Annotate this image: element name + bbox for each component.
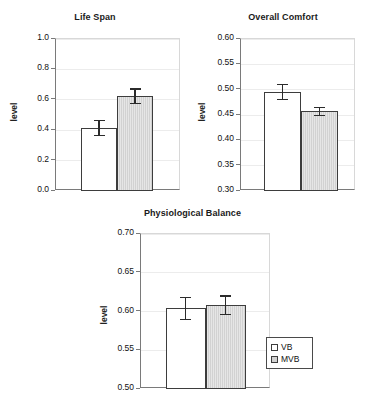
y-tick-label: 0.4: [14, 124, 49, 133]
error-bar-mvb: [301, 107, 338, 116]
y-tick-label: 0.70: [99, 228, 134, 237]
error-bar-cap-top: [180, 297, 191, 298]
y-tick-label: 0.6: [14, 94, 49, 103]
y-tick-mark: [236, 139, 240, 140]
error-bar-stem: [134, 88, 135, 104]
plot-area-life-span: [55, 38, 180, 190]
legend-label-vb: VB: [281, 343, 292, 352]
chart-title-physiological-balance: Physiological Balance: [95, 208, 290, 218]
error-bar-cap-top: [130, 88, 141, 89]
y-tick-mark: [136, 388, 140, 389]
error-bar-stem: [282, 84, 283, 100]
error-bar-cap-bottom: [277, 99, 288, 100]
gridline: [56, 69, 179, 70]
y-tick-mark: [236, 190, 240, 191]
y-tick-label: 0.50: [199, 84, 234, 93]
y-tick-mark: [136, 233, 140, 234]
gridline: [141, 234, 269, 235]
gridline: [141, 272, 269, 273]
y-tick-label: 0.40: [199, 134, 234, 143]
y-tick-mark: [236, 88, 240, 89]
y-tick-label: 0.55: [199, 58, 234, 67]
error-bar-cap-top: [277, 84, 288, 85]
y-tick-mark: [51, 190, 55, 191]
error-bar-mvb: [206, 295, 246, 315]
y-tick-mark: [136, 349, 140, 350]
error-bar-cap-bottom: [180, 319, 191, 320]
y-tick-label: 0.2: [14, 155, 49, 164]
error-bar-cap-bottom: [220, 314, 231, 315]
error-bar-stem: [225, 295, 226, 315]
y-tick-mark: [236, 164, 240, 165]
chart-title-overall-comfort: Overall Comfort: [188, 12, 378, 22]
plot-area-overall-comfort: [240, 38, 355, 190]
legend-item-vb: VB: [271, 341, 307, 353]
error-bar-stem: [185, 297, 186, 320]
error-bar-stem: [98, 120, 99, 137]
plot-area-physiological-balance: [140, 233, 270, 388]
y-tick-mark: [51, 159, 55, 160]
error-bar-vb: [81, 120, 117, 137]
y-tick-label: 0.50: [99, 383, 134, 392]
y-tick-label: 0.35: [199, 160, 234, 169]
error-bar-vb: [264, 84, 301, 100]
y-tick-label: 0.60: [99, 306, 134, 315]
y-tick-mark: [51, 38, 55, 39]
y-tick-label: 0.0: [14, 185, 49, 194]
legend-swatch-mvb-icon: [271, 356, 278, 363]
legend-label-mvb: MVB: [281, 355, 299, 364]
legend: VB MVB: [266, 337, 313, 369]
chart-panel-physiological-balance: Physiological Balance level 0.500.550.60…: [95, 200, 290, 400]
y-tick-label: 0.55: [99, 344, 134, 353]
bar-mvb: [301, 111, 338, 191]
bar-vb: [166, 308, 206, 389]
y-tick-mark: [236, 63, 240, 64]
error-bar-vb: [166, 297, 206, 320]
error-bar-cap-bottom: [314, 115, 325, 116]
error-bar-cap-top: [220, 295, 231, 296]
error-bar-mvb: [117, 88, 153, 104]
chart-panel-life-span: Life Span level 0.00.20.40.60.81.0: [0, 0, 190, 200]
bar-mvb: [117, 96, 153, 191]
gridline: [241, 39, 354, 40]
y-tick-label: 0.45: [199, 109, 234, 118]
error-bar-cap-top: [314, 107, 325, 108]
legend-item-mvb: MVB: [271, 353, 307, 365]
y-tick-mark: [136, 271, 140, 272]
chart-title-life-span: Life Span: [0, 12, 190, 22]
y-tick-label: 0.30: [199, 185, 234, 194]
y-tick-mark: [51, 129, 55, 130]
error-bar-cap-bottom: [130, 103, 141, 104]
gridline: [241, 64, 354, 65]
bar-vb: [264, 92, 301, 191]
y-tick-label: 0.8: [14, 63, 49, 72]
y-tick-mark: [236, 114, 240, 115]
chart-panel-overall-comfort: Overall Comfort level 0.300.350.400.450.…: [188, 0, 378, 200]
y-tick-mark: [236, 38, 240, 39]
y-tick-mark: [51, 98, 55, 99]
y-axis-label-physiological-balance: level: [99, 295, 109, 335]
y-tick-mark: [136, 310, 140, 311]
bar-vb: [81, 128, 117, 191]
y-tick-label: 1.0: [14, 33, 49, 42]
y-tick-label: 0.60: [199, 33, 234, 42]
bar-mvb: [206, 305, 246, 389]
error-bar-cap-bottom: [94, 135, 105, 136]
error-bar-cap-top: [94, 120, 105, 121]
legend-swatch-vb-icon: [271, 344, 278, 351]
y-tick-label: 0.65: [99, 267, 134, 276]
y-tick-mark: [51, 68, 55, 69]
gridline: [56, 39, 179, 40]
